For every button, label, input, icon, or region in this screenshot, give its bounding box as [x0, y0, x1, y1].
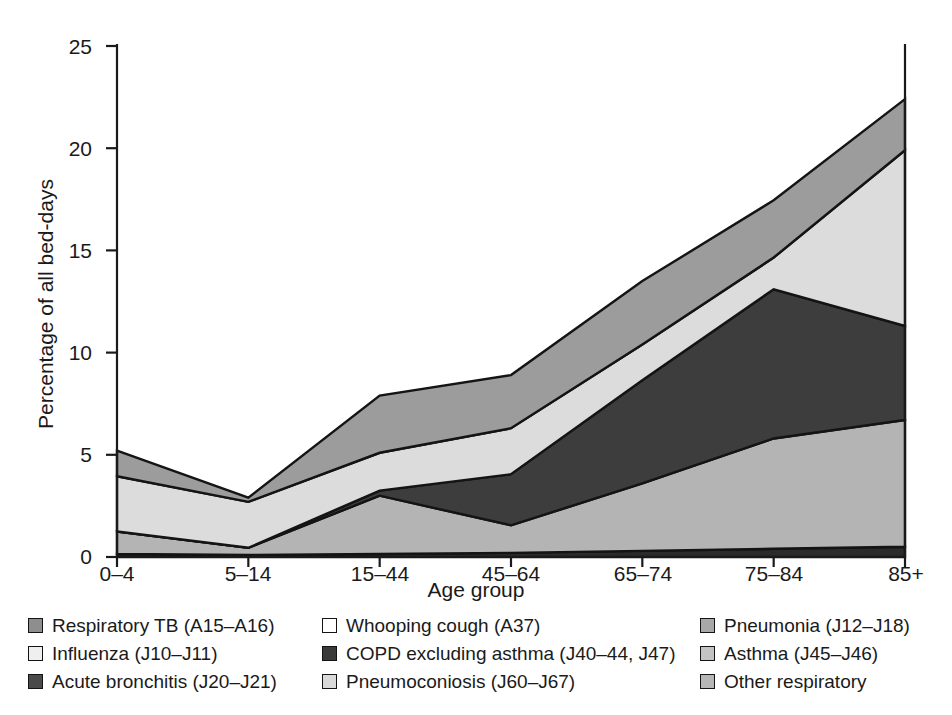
legend-label-pneumoconiosis: Pneumoconiosis (J60–J67)	[346, 672, 575, 691]
legend-column-3: Pneumonia (J12–J18) Asthma (J45–J46) Oth…	[700, 612, 910, 696]
legend-item-acute-bronchitis[interactable]: Acute bronchitis (J20–J21)	[28, 668, 277, 694]
legend-swatch-icon-pneumonia	[700, 618, 715, 633]
legend-column-2: Whooping cough (A37) COPD excluding asth…	[322, 612, 676, 696]
legend-swatch-icon-influenza	[28, 646, 43, 661]
ytick-label-25: 25	[46, 35, 92, 59]
ytick-label-20: 20	[46, 137, 92, 161]
legend-label-other-respiratory: Other respiratory	[724, 672, 867, 691]
legend-item-other-respiratory[interactable]: Other respiratory	[700, 668, 910, 694]
legend-label-whooping-cough: Whooping cough (A37)	[346, 616, 540, 635]
chart-legend: Respiratory TB (A15–A16) Influenza (J10–…	[0, 612, 952, 702]
legend-swatch-icon-pneumoconiosis	[322, 674, 337, 689]
legend-swatch-icon-respiratory-tb	[28, 618, 43, 633]
x-axis-label: Age group	[0, 578, 952, 602]
legend-item-influenza[interactable]: Influenza (J10–J11)	[28, 640, 277, 666]
plot-area: 25 20 15 10 5 0 Percentage of all bed-da…	[0, 0, 952, 600]
legend-item-pneumoconiosis[interactable]: Pneumoconiosis (J60–J67)	[322, 668, 676, 694]
legend-swatch-icon-other-respiratory	[700, 674, 715, 689]
legend-swatch-icon-whooping-cough	[322, 618, 337, 633]
y-axis-label: Percentage of all bed-days	[34, 174, 58, 434]
legend-label-pneumonia: Pneumonia (J12–J18)	[724, 616, 910, 635]
legend-item-respiratory-tb[interactable]: Respiratory TB (A15–A16)	[28, 612, 277, 638]
legend-column-1: Respiratory TB (A15–A16) Influenza (J10–…	[28, 612, 277, 696]
legend-label-influenza: Influenza (J10–J11)	[52, 644, 217, 663]
chart-figure: 25 20 15 10 5 0 Percentage of all bed-da…	[0, 0, 952, 715]
legend-item-copd[interactable]: COPD excluding asthma (J40–44, J47)	[322, 640, 676, 666]
legend-label-asthma: Asthma (J45–J46)	[724, 644, 878, 663]
ytick-label-5: 5	[46, 443, 92, 467]
stacked-area-svg	[0, 0, 952, 600]
legend-swatch-icon-asthma	[700, 646, 715, 661]
legend-item-pneumonia[interactable]: Pneumonia (J12–J18)	[700, 612, 910, 638]
legend-item-whooping-cough[interactable]: Whooping cough (A37)	[322, 612, 676, 638]
legend-item-asthma[interactable]: Asthma (J45–J46)	[700, 640, 910, 666]
legend-label-copd: COPD excluding asthma (J40–44, J47)	[346, 644, 676, 663]
legend-swatch-icon-copd	[322, 646, 337, 661]
legend-label-acute-bronchitis: Acute bronchitis (J20–J21)	[52, 672, 277, 691]
legend-label-respiratory-tb: Respiratory TB (A15–A16)	[52, 616, 274, 635]
legend-swatch-icon-acute-bronchitis	[28, 674, 43, 689]
